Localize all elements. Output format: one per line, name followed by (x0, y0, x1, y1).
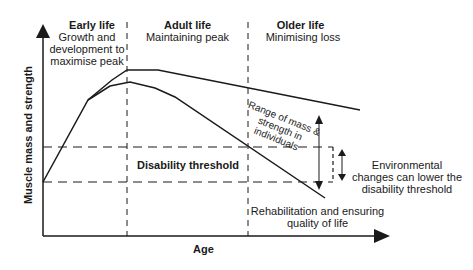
x-axis-label: Age (193, 243, 214, 255)
phase-subtitle-older: Minimising loss (258, 31, 348, 43)
x-axis (43, 229, 390, 243)
disability-threshold-label: Disability threshold (133, 159, 243, 171)
phase-title-adult: Adult life (150, 19, 225, 31)
phase-title-early: Early life (62, 19, 122, 31)
environmental-arrow (338, 149, 346, 181)
rehabilitation-label: Rehabilitation and ensuring quality of l… (250, 205, 385, 229)
phase-subtitle-adult: Maintaining peak (140, 31, 235, 43)
phase-subtitle-early: Growth and development to maximise peak (48, 31, 126, 67)
environmental-label: Environmental changes can lower the disa… (347, 159, 467, 195)
phase-title-older: Older life (263, 19, 338, 31)
y-axis-label: Muscle mass and strength (22, 66, 34, 204)
